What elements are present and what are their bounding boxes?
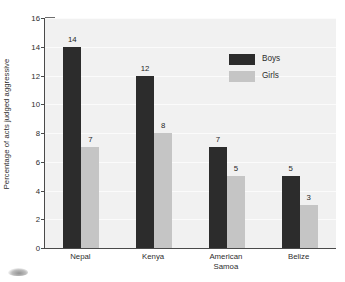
y-axis-tick-mark — [41, 219, 45, 220]
legend-swatch-girls — [229, 71, 255, 82]
bar-value-label: 3 — [306, 193, 310, 202]
bar-value-label: 12 — [141, 64, 150, 73]
y-axis-tick-label: 12 — [24, 71, 40, 80]
y-axis-tick-mark — [41, 162, 45, 163]
y-axis-tick-mark — [41, 191, 45, 192]
y-axis-tick-label: 14 — [24, 42, 40, 51]
y-axis-tick-label: 0 — [24, 244, 40, 253]
bar-girls-kenya — [154, 133, 172, 248]
y-axis-title: Percentage of acts judged aggressive — [0, 0, 14, 248]
bar-value-label: 5 — [288, 164, 292, 173]
x-axis-tick-label-line: Belize — [288, 252, 309, 262]
bar-value-label: 5 — [234, 164, 238, 173]
chart-legend: Boys Girls — [229, 52, 303, 86]
gridline — [45, 133, 336, 134]
x-axis-tick-label-line: American — [209, 252, 242, 262]
bar-girls-american-samoa — [227, 176, 245, 248]
y-axis-tick-mark — [41, 18, 45, 19]
y-axis-tick-mark — [41, 104, 45, 105]
x-axis-tick-labels: NepalKenyaAmericanSamoaBelize — [44, 252, 335, 278]
y-axis-tick-label: 10 — [24, 100, 40, 109]
bar-value-label: 7 — [216, 135, 220, 144]
legend-item-girls: Girls — [229, 69, 303, 85]
y-axis-tick-label: 2 — [24, 215, 40, 224]
bar-boys-belize — [282, 176, 300, 248]
x-axis-tick-label-line: Samoa — [209, 262, 242, 272]
x-axis-tick-label: Nepal — [70, 252, 90, 262]
gridline — [45, 18, 336, 19]
bar-boys-kenya — [136, 76, 154, 249]
legend-label-boys: Boys — [262, 52, 280, 66]
bar-girls-belize — [300, 205, 318, 248]
page-edge-artifact — [8, 268, 28, 276]
y-axis-tick-label: 4 — [24, 186, 40, 195]
y-axis-tick-labels: 0246810121416 — [20, 18, 40, 248]
y-axis-tick-label: 16 — [24, 14, 40, 23]
y-axis-tick-mark — [41, 133, 45, 134]
legend-label-girls: Girls — [262, 69, 279, 83]
bar-girls-nepal — [81, 147, 99, 248]
x-axis-tick-label-line: Nepal — [70, 252, 90, 262]
x-axis-tick-label-line: Kenya — [142, 252, 164, 262]
bar-value-label: 7 — [88, 135, 92, 144]
gridline — [45, 104, 336, 105]
y-axis-tick-mark — [41, 47, 45, 48]
legend-swatch-boys — [229, 54, 255, 65]
y-axis-tick-label: 6 — [24, 157, 40, 166]
y-axis-tick-mark — [41, 248, 45, 249]
bar-boys-nepal — [63, 47, 81, 248]
bar-value-label: 14 — [68, 35, 77, 44]
y-axis-tick-mark — [41, 76, 45, 77]
bar-chart-figure: Percentage of acts judged aggressive 024… — [0, 0, 345, 282]
x-axis-tick-label: Belize — [288, 252, 309, 262]
x-axis-tick-label: Kenya — [142, 252, 164, 262]
legend-item-boys: Boys — [229, 52, 303, 68]
bar-boys-american-samoa — [209, 147, 227, 248]
y-axis-tick-label: 8 — [24, 129, 40, 138]
gridline — [45, 47, 336, 48]
x-axis-tick-label: AmericanSamoa — [209, 252, 242, 271]
bar-value-label: 8 — [161, 121, 165, 130]
